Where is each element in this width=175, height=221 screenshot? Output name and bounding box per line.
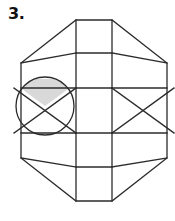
bottom-wings-group <box>21 158 167 167</box>
top-wing-right-inner-diagonal <box>112 53 167 63</box>
center-column-group <box>76 20 112 201</box>
right-panel-group <box>112 88 174 133</box>
bottom-wing-right-inner-diagonal <box>112 158 167 167</box>
outer-hexagon-outline <box>21 20 167 201</box>
hexagon-figure <box>0 0 175 221</box>
top-wing-left-inner-diagonal <box>21 53 76 63</box>
bottom-wing-left-inner-diagonal <box>21 158 76 167</box>
figure-page: 3. <box>0 0 175 221</box>
top-wings-group <box>21 53 167 63</box>
